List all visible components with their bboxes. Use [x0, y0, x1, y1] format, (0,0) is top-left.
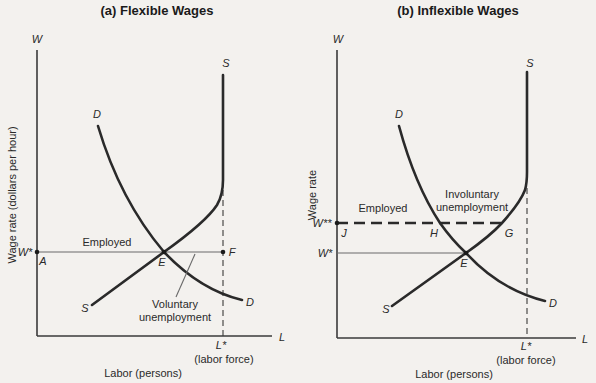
- panel-b-wstar-label: W*: [318, 247, 333, 259]
- panel-b-supply-label-top: S: [526, 57, 534, 69]
- labor-market-figure: (a) Flexible Wages W L Wage rate (dollar…: [0, 0, 596, 383]
- panel-a-point-f-dot: [221, 250, 226, 255]
- panel-a-demand-label-top: D: [93, 108, 101, 120]
- panel-a-point-e-label: E: [158, 256, 166, 268]
- panel-a-point-a-dot: [35, 250, 40, 255]
- panel-b-y-axis-label: Wage rate: [306, 170, 318, 220]
- panel-a-y-symbol: W: [32, 33, 44, 45]
- panel-a-title: (a) Flexible Wages: [101, 3, 214, 18]
- panel-b-wdoublestar-label: W**: [313, 217, 333, 229]
- panel-b-employed-label: Employed: [359, 202, 408, 214]
- panel-b-x-symbol: L: [582, 333, 588, 345]
- panel-a-y-axis-label: Wage rate (dollars per hour): [6, 126, 18, 263]
- panel-b-point-e-dot: [464, 251, 469, 256]
- panel-b-x-axis-label: Labor (persons): [415, 368, 493, 380]
- panel-a-supply-label-bottom: S: [81, 302, 89, 314]
- panel-a-x-symbol: L: [279, 331, 285, 343]
- panel-a-point-f-label: F: [229, 246, 237, 258]
- panel-a-labor-force-label: (labor force): [194, 353, 253, 365]
- panel-b-demand-label-bottom: D: [549, 297, 557, 309]
- panel-b-labor-force-label: (labor force): [496, 354, 555, 366]
- panel-b-demand-curve: [399, 126, 545, 301]
- panel-b-unemployment-label-1: Involuntary: [445, 188, 499, 200]
- panel-a-point-e-dot: [162, 250, 167, 255]
- panel-a-supply-curve: [92, 75, 223, 305]
- panel-a-supply-label-top: S: [222, 57, 230, 69]
- panel-a-unemployment-label-1: Voluntary: [152, 298, 198, 310]
- panel-flexible-wages: (a) Flexible Wages W L Wage rate (dollar…: [6, 3, 285, 379]
- panel-a-wstar-label: W*: [18, 246, 33, 258]
- panel-b-lstar-tick: L*: [521, 340, 532, 352]
- panel-a-x-axis-label: Labor (persons): [104, 367, 182, 379]
- panel-b-unemployment-label-2: unemployment: [436, 201, 508, 213]
- panel-b-y-symbol: W: [333, 33, 345, 45]
- panel-b-supply-label-bottom: S: [382, 303, 390, 315]
- panel-a-demand-label-bottom: D: [246, 296, 254, 308]
- panel-b-point-j-dot: [335, 221, 340, 226]
- panel-b-point-j-label: J: [340, 227, 347, 239]
- panel-b-title: (b) Inflexible Wages: [397, 3, 519, 18]
- panel-a-unemployment-label-2: unemployment: [139, 311, 211, 323]
- panel-b-demand-label-top: D: [395, 108, 403, 120]
- panel-a-demand-curve: [98, 126, 242, 300]
- panel-b-point-h-label: H: [430, 227, 438, 239]
- panel-a-point-a-label: A: [38, 255, 46, 267]
- panel-inflexible-wages: (b) Inflexible Wages W L Wage rate Labor…: [306, 3, 588, 380]
- panel-a-employed-label: Employed: [83, 236, 132, 248]
- panel-b-point-g-label: G: [505, 227, 514, 239]
- panel-a-lstar-tick: L*: [216, 339, 227, 351]
- panel-b-point-e-label: E: [460, 257, 468, 269]
